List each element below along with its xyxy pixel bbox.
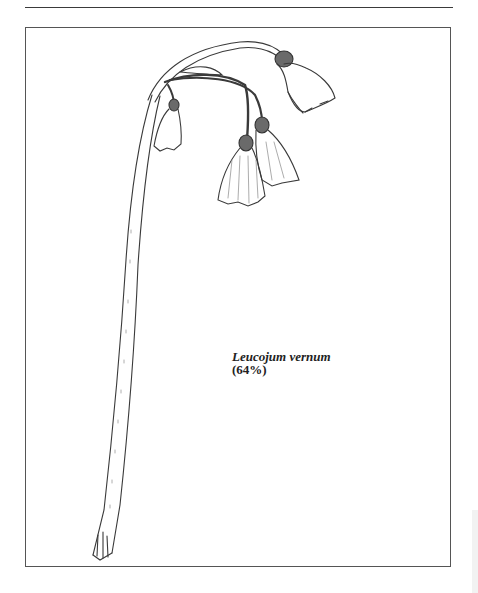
scale-percentage: (64%) (232, 363, 331, 376)
page-edge-shadow (472, 510, 478, 593)
leucojum-illustration (0, 0, 478, 593)
illustration-caption: Leucojum vernum (64%) (232, 350, 331, 376)
